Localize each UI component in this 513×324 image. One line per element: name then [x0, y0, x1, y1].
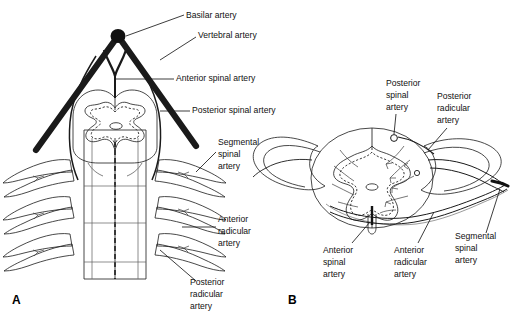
svg-text:Posterior: Posterior: [386, 78, 421, 88]
central-canal-b: [366, 184, 378, 190]
label-vertebral-artery: Vertebral artery: [198, 30, 257, 40]
segmental-spinal-artery-mark: [492, 181, 508, 186]
panel-a-cord-cross-section: [73, 90, 157, 176]
label-posterior-spinal-artery-a: Posterior spinal artery: [192, 105, 276, 115]
svg-text:Anterior: Anterior: [218, 214, 248, 224]
svg-text:radicular: radicular: [437, 103, 470, 113]
panel-b-gray-matter: [332, 128, 414, 228]
svg-text:Anterior: Anterior: [394, 245, 424, 255]
panel-letter-a: A: [12, 293, 21, 307]
svg-text:Posterior: Posterior: [437, 91, 472, 101]
panel-a-illustration: [3, 15, 226, 281]
svg-text:spinal: spinal: [386, 90, 409, 100]
svg-text:spinal: spinal: [455, 243, 478, 253]
svg-text:artery: artery: [437, 115, 460, 125]
panel-letter-b: B: [288, 293, 297, 307]
svg-text:artery: artery: [218, 238, 241, 248]
central-canal: [110, 123, 122, 130]
radicular-vessel-dot: [414, 170, 419, 175]
svg-text:spinal: spinal: [218, 149, 241, 159]
svg-text:radicular: radicular: [190, 289, 223, 299]
posterior-spinal-artery-dot: [391, 135, 398, 142]
svg-text:artery: artery: [386, 102, 409, 112]
svg-text:Segmental: Segmental: [218, 137, 259, 147]
svg-text:Anterior: Anterior: [323, 245, 353, 255]
svg-text:artery: artery: [394, 269, 417, 279]
label-segmental-spinal-artery-a: Segmental spinal artery: [218, 137, 259, 171]
svg-text:artery: artery: [190, 301, 213, 311]
svg-text:artery: artery: [323, 269, 346, 279]
svg-text:Posterior: Posterior: [190, 277, 225, 287]
anatomical-figure: Basilar artery Vertebral artery Anterior…: [0, 0, 513, 324]
label-posterior-spinal-artery-b: Posterior spinal artery: [386, 78, 421, 112]
svg-text:spinal: spinal: [323, 257, 346, 267]
basilar-artery-blob: [111, 29, 126, 43]
svg-text:artery: artery: [218, 161, 241, 171]
label-anterior-radicular-artery-a: Anterior radicular artery: [218, 214, 251, 248]
label-posterior-radicular-artery-b: Posterior radicular artery: [437, 91, 472, 125]
label-anterior-radicular-artery-b: Anterior radicular artery: [394, 245, 427, 279]
segmental-artery-right: [428, 160, 502, 183]
svg-text:artery: artery: [455, 255, 478, 265]
panel-b-illustration: [253, 114, 508, 243]
svg-text:radicular: radicular: [394, 257, 427, 267]
svg-text:radicular: radicular: [218, 226, 251, 236]
svg-text:Segmental: Segmental: [455, 231, 496, 241]
label-segmental-spinal-artery-b: Segmental spinal artery: [455, 231, 496, 265]
figure-canvas: Basilar artery Vertebral artery Anterior…: [0, 0, 513, 324]
label-anterior-spinal-artery-a: Anterior spinal artery: [176, 73, 256, 83]
label-anterior-spinal-artery-b: Anterior spinal artery: [323, 245, 353, 279]
label-basilar-artery: Basilar artery: [186, 10, 237, 20]
label-posterior-radicular-artery-a: Posterior radicular artery: [190, 277, 225, 311]
panel-b-root-sleeves: [253, 137, 504, 194]
